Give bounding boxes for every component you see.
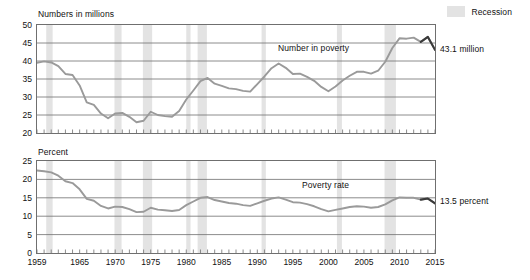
y-tick-label: 35	[12, 74, 32, 84]
recession-band	[186, 161, 190, 253]
recession-swatch-icon	[447, 6, 465, 17]
bottom-chart-series-label: Poverty rate	[302, 180, 349, 190]
y-tick-label: 15	[12, 193, 32, 203]
recession-band	[198, 161, 207, 253]
x-tick-label: 2005	[344, 257, 384, 267]
y-tick-label: 20	[12, 128, 32, 138]
x-tick-label: 1965	[60, 257, 100, 267]
y-tick-label: 50	[12, 20, 32, 30]
x-tick-label: 2015	[415, 257, 455, 267]
bottom-chart-axis-title: Percent	[38, 147, 68, 157]
data-series-highlight-segment	[421, 199, 435, 204]
top-chart-plot-area	[36, 24, 436, 134]
recession-band	[46, 161, 52, 253]
data-series-line	[37, 171, 435, 213]
x-tick-label: 2000	[308, 257, 348, 267]
x-tick-label: 1975	[131, 257, 171, 267]
legend: Recession	[447, 6, 512, 17]
top-chart-series-label: Number in poverty	[278, 43, 349, 53]
y-tick-label: 25	[12, 156, 32, 166]
data-series-line	[37, 37, 435, 122]
legend-label-recession: Recession	[471, 7, 512, 17]
x-tick-label: 1985	[202, 257, 242, 267]
x-tick-label: 1970	[95, 257, 135, 267]
x-tick-label: 1995	[273, 257, 313, 267]
percent-callout: 13.5 percent	[440, 196, 488, 206]
y-tick-label: 10	[12, 211, 32, 221]
poverty-chart-figure: Recession Numbers in millions Number in …	[0, 0, 530, 280]
y-tick-label: 25	[12, 110, 32, 120]
y-tick-label: 45	[12, 38, 32, 48]
x-tick-label: 1990	[237, 257, 277, 267]
x-tick-label: 2010	[379, 257, 419, 267]
bottom-chart-canvas	[37, 161, 435, 253]
recession-band	[385, 161, 396, 253]
top-chart-canvas	[37, 25, 435, 133]
top-chart-axis-title: Numbers in millions	[38, 9, 114, 19]
y-tick-label: 5	[12, 230, 32, 240]
recession-band	[337, 161, 342, 253]
y-tick-label: 30	[12, 92, 32, 102]
x-tick-label: 1980	[166, 257, 206, 267]
x-tick-label: 1959	[17, 257, 57, 267]
y-tick-label: 20	[12, 174, 32, 184]
numbers-callout: 43.1 million	[440, 44, 484, 54]
bottom-chart-plot-area	[36, 160, 436, 254]
recession-band	[262, 161, 266, 253]
y-tick-label: 40	[12, 56, 32, 66]
